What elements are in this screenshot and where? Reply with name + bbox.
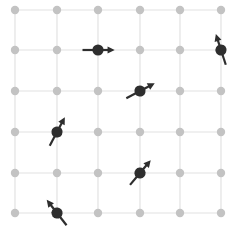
lattice-site-dot: [136, 46, 144, 54]
spin-center-dot: [132, 83, 147, 98]
lattice-site-dot: [176, 209, 184, 217]
lattice-site-dot: [53, 169, 61, 177]
spin-center-dot: [49, 124, 64, 139]
lattice-site-dot: [11, 209, 19, 217]
lattice-site-dot: [11, 169, 19, 177]
lattice-site-dot: [53, 6, 61, 14]
lattice-site-dot: [94, 209, 102, 217]
lattice-site-dot: [217, 209, 225, 217]
lattice-site-dot: [217, 169, 225, 177]
spin-center-dot: [214, 43, 228, 57]
spin-arrow-head: [147, 80, 157, 90]
spin-center-dot: [92, 44, 103, 55]
lattice-site-layer: [11, 6, 225, 217]
lattice-canvas: [0, 0, 235, 235]
spin-arrow-head: [212, 33, 221, 42]
lattice-site-dot: [94, 6, 102, 14]
spin-arrow-head: [108, 46, 115, 53]
lattice-site-dot: [94, 128, 102, 136]
lattice-site-dot: [176, 87, 184, 95]
lattice-site-dot: [217, 128, 225, 136]
lattice-site-dot: [136, 6, 144, 14]
lattice-bond-layer: [15, 10, 221, 213]
lattice-site-dot: [11, 87, 19, 95]
lattice-site-dot: [53, 87, 61, 95]
lattice-site-dot: [176, 6, 184, 14]
spin-lattice-figure: [0, 0, 235, 235]
lattice-site-dot: [136, 128, 144, 136]
spin-r2c3: [83, 44, 115, 55]
lattice-site-dot: [94, 169, 102, 177]
lattice-site-dot: [217, 6, 225, 14]
lattice-site-dot: [176, 46, 184, 54]
lattice-site-dot: [53, 46, 61, 54]
lattice-site-dot: [176, 169, 184, 177]
lattice-site-dot: [11, 46, 19, 54]
lattice-site-dot: [136, 209, 144, 217]
lattice-site-dot: [217, 87, 225, 95]
lattice-site-dot: [176, 128, 184, 136]
spin-arrow-head: [58, 116, 68, 126]
lattice-site-dot: [11, 6, 19, 14]
lattice-site-dot: [94, 87, 102, 95]
lattice-site-dot: [11, 128, 19, 136]
